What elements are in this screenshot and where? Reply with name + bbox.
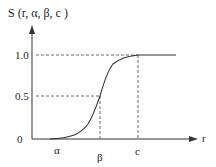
tick-label-c: c — [135, 146, 140, 157]
plot-title: S (r, α, β, c ) — [8, 8, 68, 19]
s-curve — [50, 55, 176, 139]
tick-label-alpha: α — [54, 145, 60, 156]
y-axis-arrow-icon — [29, 25, 35, 34]
tick-label-beta: β — [97, 152, 103, 163]
s-function-plot — [0, 0, 216, 167]
x-axis-label: r — [202, 133, 206, 144]
tick-label-1.0: 1.0 — [15, 50, 29, 61]
tick-label-0: 0 — [17, 134, 23, 145]
tick-label-0.5: 0.5 — [15, 91, 29, 102]
x-axis-arrow-icon — [189, 136, 198, 142]
